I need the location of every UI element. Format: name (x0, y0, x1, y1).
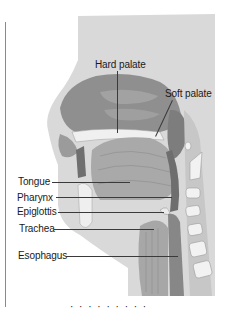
leader-pharynx (56, 197, 172, 198)
leader-hard-palate (117, 71, 118, 133)
clipped-caption: · · · · · · · · · (70, 301, 148, 312)
label-soft-palate: Soft palate (165, 88, 212, 100)
label-pharynx: Pharynx (17, 192, 53, 204)
label-hard-palate: Hard palate (95, 59, 146, 71)
leader-epiglottis (58, 212, 164, 213)
mandible (78, 183, 92, 227)
label-epiglottis: Epiglottis (17, 206, 57, 218)
leader-tongue (52, 182, 130, 183)
trachea-shape (138, 220, 168, 296)
leader-esophagus (66, 256, 178, 257)
leader-trachea (54, 229, 154, 230)
label-tongue: Tongue (18, 176, 50, 188)
label-trachea: Trachea (19, 223, 55, 235)
label-esophagus: Esophagus (18, 250, 67, 262)
